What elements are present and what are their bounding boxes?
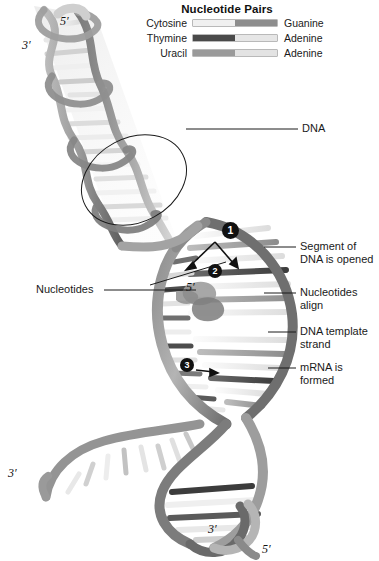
legend-row-cytosine-guanine: Cytosine Guanine [125,16,325,30]
label-top-three-prime: 3′ [22,38,31,53]
callout-dna-template-strand-line2: strand [300,338,331,351]
step-badge-2: 2 [208,264,222,278]
label-left-three-prime: 3′ [8,466,17,481]
legend-bar-half-left [193,50,235,56]
legend-bar-half-right [235,50,277,56]
legend-bar-half-left [193,20,235,26]
legend-bar-half-right [235,20,277,26]
callout-nucleotides: Nucleotides [36,283,93,296]
label-bottom-three-prime: 3′ [208,522,217,537]
callout-mrna-formed-line1: mRNA is [300,361,343,374]
mrna-strand [42,424,200,497]
callout-nucleotides-align-line2: align [300,299,323,312]
legend-label-adenine: Adenine [278,47,323,59]
legend-bar-uracil-adenine [192,49,278,57]
label-inner-five-prime: 5′ [186,280,195,295]
legend-row-uracil-adenine: Uracil Adenine [125,46,325,60]
legend-bar-half-left [193,35,235,41]
legend-label-adenine: Adenine [278,32,323,44]
legend-bar-thymine-adenine [192,34,278,42]
label-top-five-prime: 5′ [60,14,69,29]
legend-bar-cytosine-guanine [192,19,278,27]
callout-dna: DNA [302,122,325,135]
legend-label-uracil: Uracil [125,47,192,59]
transcription-bubble [122,222,293,424]
legend-label-cytosine: Cytosine [125,17,192,29]
callout-segment-opened-line1: Segment of [300,240,356,253]
legend-label-thymine: Thymine [125,32,192,44]
callout-nucleotides-align-line1: Nucleotides [300,286,357,299]
label-bottom-five-prime: 5′ [262,542,271,557]
callout-mrna-formed-line2: formed [300,374,334,387]
step-badge-1: 1 [222,222,239,239]
transcription-diagram: Nucleotide Pairs Cytosine Guanine Thymin… [0,0,379,561]
legend-row-thymine-adenine: Thymine Adenine [125,31,325,45]
callout-dna-template-strand-line1: DNA template [300,325,368,338]
legend-bar-half-right [235,35,277,41]
legend-label-guanine: Guanine [278,17,324,29]
legend-title: Nucleotide Pairs [147,3,307,15]
nucleotide-pairs-legend: Nucleotide Pairs Cytosine Guanine Thymin… [125,3,325,60]
step-badge-3: 3 [180,358,194,372]
callout-segment-opened-line2: DNA is opened [300,253,373,266]
